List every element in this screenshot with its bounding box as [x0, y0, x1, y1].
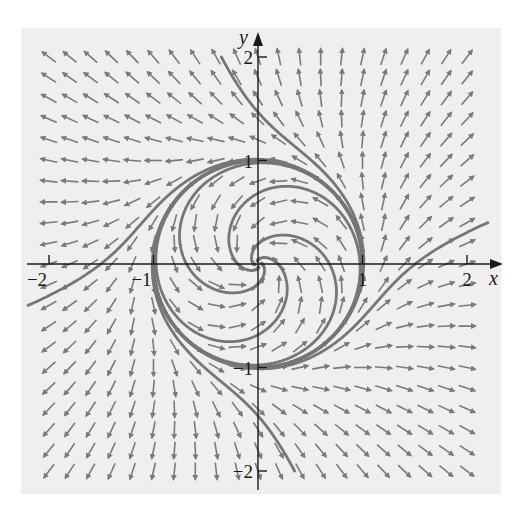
y-tick-label: 1 [244, 151, 254, 172]
x-tick-label: −2 [27, 269, 47, 290]
field-arrow [341, 111, 342, 128]
field-arrow [195, 442, 196, 459]
y-tick-label: −2 [233, 461, 253, 482]
field-arrow [237, 235, 238, 252]
field-arrow [341, 90, 342, 107]
field-arrow [229, 346, 246, 347]
field-arrow [320, 69, 321, 86]
x-tick-label: 1 [358, 269, 368, 290]
field-arrow [229, 284, 246, 285]
field-arrow [82, 181, 99, 182]
x-axis-name: x [488, 267, 498, 289]
field-arrow [174, 421, 175, 438]
field-arrow [61, 202, 78, 203]
x-tick-label: 2 [462, 269, 472, 290]
y-axis-name: y [237, 26, 248, 49]
field-arrow [174, 400, 175, 417]
field-arrow [270, 181, 287, 182]
field-arrow [174, 235, 175, 252]
y-tick-label: 2 [244, 47, 254, 68]
phase-portrait: −2−112−2−112 x y [0, 0, 528, 515]
field-arrow [279, 276, 280, 293]
y-tick-label: −1 [233, 358, 253, 379]
field-arrow [396, 346, 413, 347]
field-arrow [417, 346, 434, 347]
field-arrow [341, 276, 342, 293]
x-tick-label: −1 [131, 269, 151, 290]
field-arrow [103, 181, 120, 182]
field-arrow [438, 326, 455, 327]
field-arrow [270, 243, 287, 244]
